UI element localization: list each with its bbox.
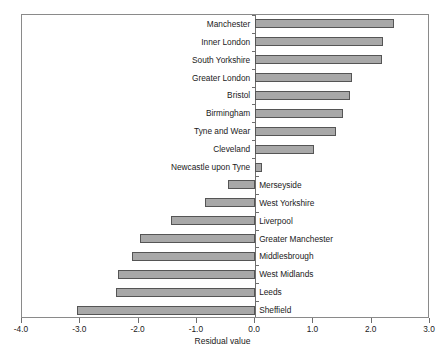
plot-frame: ManchesterInner LondonSouth YorkshireGre… (21, 14, 429, 318)
category-tick (252, 51, 255, 52)
category-tick (256, 212, 259, 213)
bar (77, 306, 255, 315)
category-label: Greater Manchester (259, 234, 333, 242)
bar (171, 216, 256, 225)
category-label: Liverpool (259, 216, 293, 224)
x-axis-title: Residual value (0, 336, 445, 346)
bar-row: Inner London (22, 37, 428, 46)
category-tick (252, 33, 255, 34)
bar (255, 37, 383, 46)
x-tick-label: 2.0 (365, 324, 377, 334)
x-tick (79, 318, 80, 323)
category-label: Birmingham (206, 109, 250, 117)
x-tick-label: -2.0 (130, 324, 144, 334)
bar-row: Birmingham (22, 109, 428, 118)
category-tick (252, 104, 255, 105)
bar (116, 288, 255, 297)
x-tick (138, 318, 139, 323)
category-tick (256, 194, 259, 195)
category-label: Tyne and Wear (194, 127, 250, 135)
category-label: Inner London (201, 38, 250, 46)
bar-row: Newcastle upon Tyne (22, 163, 428, 172)
bar-row: Greater Manchester (22, 234, 428, 243)
category-tick (256, 265, 259, 266)
category-tick (252, 15, 255, 16)
bar (255, 55, 382, 64)
category-label: Bristol (227, 91, 250, 99)
category-label: Middlesbrough (259, 252, 313, 260)
category-label: South Yorkshire (192, 56, 250, 64)
bar-row: Greater London (22, 73, 428, 82)
bar-row: South Yorkshire (22, 55, 428, 64)
category-label: Manchester (207, 20, 250, 28)
category-label: Greater London (192, 73, 250, 81)
bar-row: Merseyside (22, 180, 428, 189)
x-tick (371, 318, 372, 323)
x-tick-label: 0.0 (248, 324, 260, 334)
bar (118, 270, 255, 279)
category-tick (256, 230, 259, 231)
category-label: Sheffield (259, 306, 291, 314)
category-tick (252, 140, 255, 141)
x-tick (429, 318, 430, 323)
bar (205, 198, 255, 207)
bar-row: West Midlands (22, 270, 428, 279)
category-tick (256, 301, 259, 302)
category-tick (256, 176, 259, 177)
category-tick (252, 87, 255, 88)
residual-value-bar-chart: ManchesterInner LondonSouth YorkshireGre… (0, 0, 445, 352)
category-tick (252, 158, 255, 159)
bar-row: Cleveland (22, 145, 428, 154)
category-label: Newcastle upon Tyne (171, 163, 250, 171)
bar (255, 73, 352, 82)
category-tick (256, 283, 259, 284)
category-label: Merseyside (259, 181, 301, 189)
bar (132, 252, 256, 261)
category-label: West Midlands (259, 270, 313, 278)
x-tick (312, 318, 313, 323)
plot-area: ManchesterInner LondonSouth YorkshireGre… (22, 15, 428, 317)
x-tick (196, 318, 197, 323)
bar (255, 109, 342, 118)
bar (228, 180, 255, 189)
bar (255, 127, 336, 136)
bar-row: West Yorkshire (22, 198, 428, 207)
category-tick (252, 69, 255, 70)
x-tick-label: -3.0 (72, 324, 86, 334)
bar-row: Bristol (22, 91, 428, 100)
bar-row: Manchester (22, 19, 428, 28)
bar (255, 19, 394, 28)
x-tick (254, 318, 255, 323)
category-label: West Yorkshire (259, 199, 314, 207)
category-tick (256, 247, 259, 248)
bar-row: Middlesbrough (22, 252, 428, 261)
category-tick (252, 122, 255, 123)
bar-row: Liverpool (22, 216, 428, 225)
bar (140, 234, 255, 243)
x-tick-label: 1.0 (307, 324, 319, 334)
x-tick-label: 3.0 (423, 324, 435, 334)
x-tick-label: -1.0 (189, 324, 203, 334)
x-tick (21, 318, 22, 323)
bar-row: Tyne and Wear (22, 127, 428, 136)
category-label: Cleveland (213, 145, 250, 153)
bar (255, 163, 262, 172)
x-tick-label: -4.0 (14, 324, 28, 334)
category-label: Leeds (259, 288, 282, 296)
bar-row: Sheffield (22, 306, 428, 315)
bar (255, 91, 350, 100)
bar-row: Leeds (22, 288, 428, 297)
bar (255, 145, 314, 154)
